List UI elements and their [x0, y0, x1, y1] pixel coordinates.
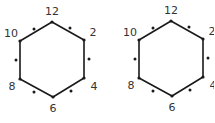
odd-hour-dot-7 — [33, 91, 36, 94]
odd-hour-dot-5 — [189, 89, 192, 92]
vertex-point-12 — [169, 19, 172, 22]
vertex-label-8: 8 — [9, 80, 16, 93]
vertex-label-12: 12 — [45, 5, 59, 18]
vertex-label-10: 10 — [123, 26, 137, 39]
odd-hour-dot-11 — [152, 27, 155, 30]
vertex-point-2 — [201, 37, 204, 40]
vertex-label-6: 6 — [169, 101, 176, 114]
vertex-label-6: 6 — [50, 102, 57, 115]
odd-hour-dot-7 — [152, 90, 155, 93]
vertex-label-4: 4 — [91, 80, 98, 93]
hexagon-outline — [20, 22, 84, 97]
vertex-label-12: 12 — [164, 4, 178, 17]
vertex-point-2 — [82, 38, 85, 41]
odd-hour-dot-11 — [33, 28, 36, 31]
vertex-point-8 — [137, 76, 140, 79]
odd-hour-dot-1 — [69, 27, 72, 30]
odd-hour-dot-5 — [70, 90, 73, 93]
vertex-point-12 — [50, 20, 53, 23]
hexagon-outline — [139, 21, 203, 96]
right-hexagon: 12246810 — [123, 4, 214, 114]
vertex-point-10 — [18, 39, 21, 42]
vertex-label-2: 2 — [209, 25, 215, 38]
vertex-label-4: 4 — [210, 79, 215, 92]
diagram-canvas: 1224681012246810 — [0, 0, 214, 123]
vertex-label-2: 2 — [90, 26, 97, 39]
odd-hour-dot-1 — [188, 26, 191, 29]
left-hexagon: 12246810 — [4, 5, 98, 115]
vertex-point-6 — [51, 95, 54, 98]
odd-hour-dot-3 — [207, 57, 210, 60]
vertex-label-10: 10 — [4, 27, 18, 40]
vertex-point-10 — [137, 38, 140, 41]
vertex-point-6 — [170, 94, 173, 97]
vertex-point-4 — [82, 76, 85, 79]
odd-hour-dot-9 — [15, 59, 18, 62]
odd-hour-dot-9 — [134, 58, 137, 61]
vertex-point-8 — [18, 77, 21, 80]
vertex-label-8: 8 — [128, 79, 135, 92]
vertex-point-4 — [201, 75, 204, 78]
odd-hour-dot-3 — [88, 58, 91, 61]
